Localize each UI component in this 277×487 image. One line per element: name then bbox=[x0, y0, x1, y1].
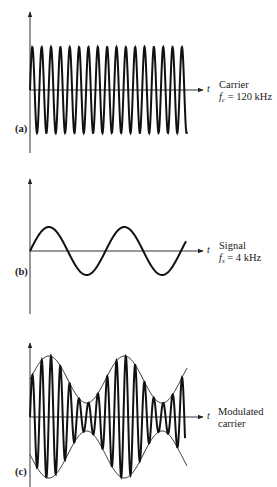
panel-b-label: (b) bbox=[15, 266, 28, 277]
carrier-caption-title: Carrier bbox=[219, 79, 272, 91]
modulated-caption: Modulated carrier bbox=[218, 406, 264, 430]
signal-caption: Signal fs = 4 kHz bbox=[219, 240, 261, 267]
modulated-carrier-panel bbox=[30, 343, 203, 487]
carrier-caption: Carrier fc = 120 kHz bbox=[219, 79, 272, 106]
signal-frequency: fs = 4 kHz bbox=[219, 252, 261, 267]
panel-a-time-axis-label: t bbox=[207, 83, 210, 94]
modulated-caption-line2: carrier bbox=[218, 418, 264, 430]
panel-b-time-axis-label: t bbox=[207, 244, 210, 255]
panel-a-label: (a) bbox=[15, 123, 27, 134]
panel-c-time-axis-label: t bbox=[207, 410, 210, 421]
carrier-panel bbox=[30, 12, 203, 153]
modulated-caption-line1: Modulated bbox=[218, 406, 264, 418]
signal-caption-title: Signal bbox=[219, 240, 261, 252]
signal-panel bbox=[30, 179, 203, 314]
carrier-frequency: fc = 120 kHz bbox=[219, 91, 272, 106]
panel-c-label: (c) bbox=[15, 466, 27, 477]
